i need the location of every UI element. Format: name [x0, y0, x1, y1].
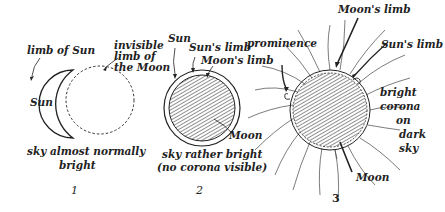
moon-invisible-limb [66, 66, 134, 134]
label-suns-limb-3: Sun's limb [381, 39, 443, 50]
prominence-left [285, 94, 290, 100]
panel-number-3: 3 [332, 192, 340, 205]
label-moon-2: Moon [229, 130, 262, 141]
panel-number-2: 2 [196, 184, 203, 197]
moon-disk [169, 75, 235, 141]
label-invisible-limb-line3: the Moon [114, 62, 170, 73]
label-moons-limb-2: Moon's limb [201, 55, 273, 66]
label-moons-limb-3: Moon's limb [338, 4, 410, 15]
caption-2-line2: (no corona visible) [157, 162, 267, 173]
label-sun-1: Sun [30, 97, 53, 108]
label-limb-of-sun: limb of Sun [27, 45, 95, 56]
label-sun-2: Sun [168, 33, 191, 44]
caption-2-line1: sky rather bright [162, 149, 262, 160]
label-on: on [396, 115, 411, 126]
label-dark: dark [399, 129, 426, 140]
label-bright: bright [380, 87, 417, 98]
caption-1-line2: bright [59, 160, 96, 171]
moon-disk-3 [293, 73, 367, 147]
label-moon-3: Moon [356, 172, 389, 183]
label-sky: sky [399, 143, 418, 154]
label-prominence: prominence [247, 38, 317, 49]
label-corona: corona [380, 101, 420, 112]
caption-1-line1: sky almost normally [27, 146, 145, 157]
label-suns-limb-2: Sun's limb [189, 42, 251, 53]
panel-number-1: 1 [71, 184, 78, 197]
